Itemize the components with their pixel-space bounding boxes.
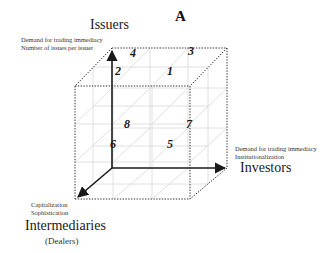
figure-label: A <box>175 8 186 25</box>
cell-1: 1 <box>167 64 173 79</box>
cell-5: 5 <box>167 137 173 152</box>
intermediaries-axis-descriptors: Capitalization Sophistication <box>31 201 68 216</box>
intermediaries-axis <box>78 168 112 197</box>
cube-grid <box>75 48 227 199</box>
intermediaries-descriptor: Sophistication <box>31 209 68 217</box>
investors-axis-descriptors: Demand for trading immediacy Institution… <box>235 145 317 160</box>
cube-edges <box>75 48 227 199</box>
cell-4: 4 <box>130 46 136 61</box>
cell-7: 7 <box>186 117 192 132</box>
cell-6: 6 <box>110 137 116 152</box>
issuers-descriptor: Number of issues per issuer <box>21 44 103 52</box>
cell-3: 3 <box>188 44 194 59</box>
cell-8: 8 <box>124 117 130 132</box>
cell-2: 2 <box>115 64 121 79</box>
intermediaries-descriptor: Capitalization <box>31 201 68 209</box>
issuers-axis-title: Issuers <box>90 17 129 33</box>
intermediaries-axis-subtitle: (Dealers) <box>45 236 78 246</box>
investors-descriptor: Institutionalization <box>235 153 317 161</box>
issuers-axis-descriptors: Demand for trading immediacy Number of i… <box>21 36 103 51</box>
investors-descriptor: Demand for trading immediacy <box>235 145 317 153</box>
intermediaries-axis-title: Intermediaries <box>25 218 106 234</box>
investors-axis-title: Investors <box>240 160 291 176</box>
issuers-descriptor: Demand for trading immediacy <box>21 36 103 44</box>
